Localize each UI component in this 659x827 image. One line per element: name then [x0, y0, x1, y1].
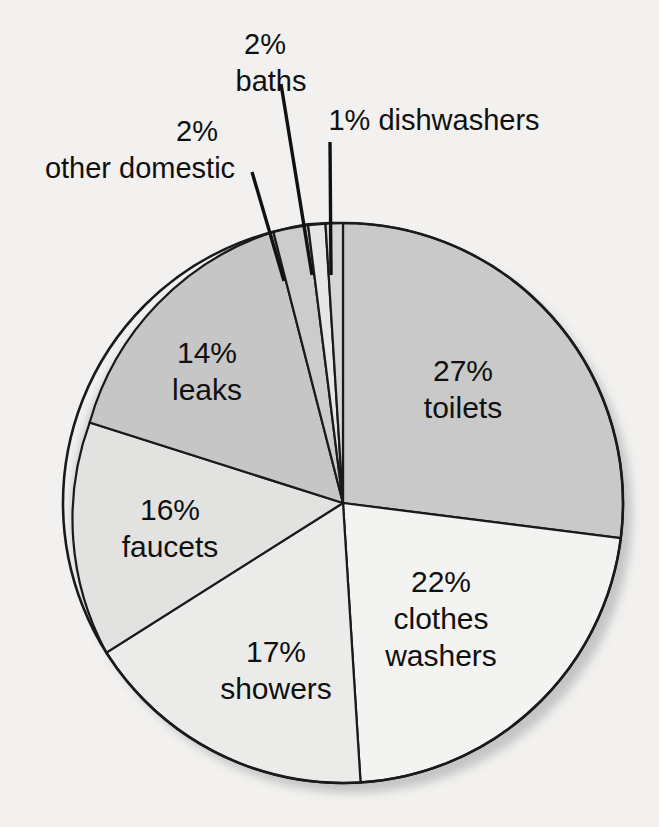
label-other-domestic-percent: 2%: [176, 115, 218, 147]
label-baths-name: baths: [236, 65, 307, 97]
pie-chart-svg: 27% toilets 22% clothes washers 17% show…: [0, 0, 659, 827]
label-faucets-percent: 16%: [140, 493, 200, 526]
label-clothes-percent: 22%: [411, 565, 471, 598]
label-baths-percent: 2%: [244, 28, 286, 60]
label-toilets-name: toilets: [424, 391, 502, 424]
label-clothes-name-line1: clothes: [393, 602, 488, 635]
leader-line-dishwashers: [330, 142, 331, 275]
label-leaks-percent: 14%: [177, 336, 237, 369]
label-toilets-percent: 27%: [433, 354, 493, 387]
label-clothes-name-line2: washers: [384, 639, 497, 672]
label-showers-name: showers: [220, 672, 332, 705]
label-leaks-name: leaks: [172, 373, 242, 406]
label-other-domestic-name: other domestic: [45, 152, 235, 184]
label-showers-percent: 17%: [246, 635, 306, 668]
pie-chart-figure: 27% toilets 22% clothes washers 17% show…: [0, 0, 659, 827]
label-dishwashers: 1% dishwashers: [328, 104, 539, 136]
label-faucets-name: faucets: [122, 530, 219, 563]
